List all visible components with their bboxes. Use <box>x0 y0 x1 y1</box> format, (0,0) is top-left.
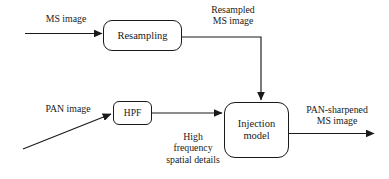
edge-pan-image-to-hpf <box>23 114 111 149</box>
edge-resampling-to-injection <box>182 37 261 100</box>
node-resampling[interactable]: Resampling <box>103 20 182 51</box>
node-resampling-label: Resampling <box>104 30 181 42</box>
node-injection-model-label: Injection model <box>225 118 288 142</box>
edge-label-resampled-ms-image: Resampled MS image <box>196 4 270 27</box>
edge-label-ms-image: MS image <box>30 13 102 24</box>
edge-label-high-frequency-spatial-details: High frequency spatial details <box>152 131 234 165</box>
edge-label-pan-image: PAN image <box>30 103 106 114</box>
edge-label-pan-sharpened-ms-image: PAN-sharpened MS image <box>290 104 384 127</box>
diagram-canvas: Resampling HPF Injection model MS image … <box>0 0 389 179</box>
node-hpf-label: HPF <box>114 108 151 119</box>
node-hpf[interactable]: HPF <box>113 101 152 125</box>
